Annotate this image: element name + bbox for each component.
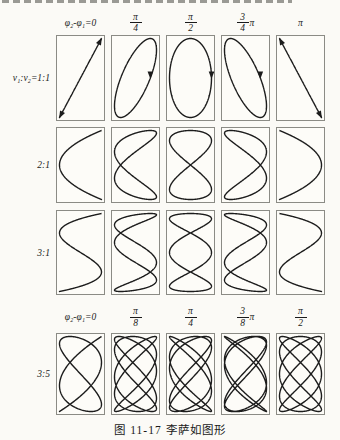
lissajous-curve xyxy=(170,131,212,200)
fraction-denominator: 8 xyxy=(237,317,249,328)
fraction-denominator: 2 xyxy=(295,317,307,328)
phase-label: π2 xyxy=(166,11,215,34)
ratio-label: 3:1 xyxy=(0,210,53,295)
phase-label: φ₂-φ₁=0 xyxy=(56,11,105,34)
lissajous-curve xyxy=(280,131,322,200)
lissajous-curve-svg xyxy=(57,211,104,294)
phase-fraction: π4 xyxy=(185,306,197,328)
lissajous-curve xyxy=(225,131,267,200)
direction-arrow xyxy=(96,36,104,45)
phase-fraction: 34 xyxy=(237,12,249,34)
direction-arrow xyxy=(277,36,285,45)
lissajous-curve-svg xyxy=(112,128,159,202)
fraction-suffix: π xyxy=(250,312,255,322)
lissajous-curve-svg xyxy=(57,128,104,202)
lissajous-curve xyxy=(115,337,157,412)
phase-label: φ₂-φ₁=0 xyxy=(56,303,105,331)
lissajous-curve-svg xyxy=(277,36,324,120)
phase-label: π4 xyxy=(166,303,215,331)
lissajous-curve xyxy=(115,131,157,200)
direction-arrow xyxy=(148,72,154,80)
lissajous-curve-svg xyxy=(167,128,214,202)
lissajous-curve xyxy=(280,214,322,292)
lissajous-curve-svg xyxy=(277,211,324,294)
lissajous-cell-r2c1 xyxy=(56,127,105,203)
lissajous-cell-r4c5 xyxy=(276,333,325,415)
phase-label: π2 xyxy=(276,303,325,331)
phase-text: π xyxy=(298,18,303,28)
lissajous-cell-r3c5 xyxy=(276,210,325,295)
lissajous-cell-r2c2 xyxy=(111,127,160,203)
lissajous-figure: 图 11-17 李萨如图形 φ₂-φ₁=0π4π234ππφ₂-φ₁=0π8π4… xyxy=(0,0,340,440)
phase-fraction: π8 xyxy=(130,306,142,328)
lissajous-curve-svg xyxy=(112,211,159,294)
lissajous-cell-r1c4 xyxy=(221,35,270,121)
phase-label: π4 xyxy=(111,11,160,34)
fraction-numerator: 3 xyxy=(238,306,247,316)
lissajous-cell-r1c1 xyxy=(56,35,105,121)
fraction-denominator: 2 xyxy=(185,22,197,33)
lissajous-cell-r2c3 xyxy=(166,127,215,203)
lissajous-curve-svg xyxy=(167,334,214,414)
direction-arrow xyxy=(258,72,264,80)
lissajous-curve-svg xyxy=(167,211,214,294)
lissajous-curve-svg xyxy=(57,36,104,120)
lissajous-cell-r3c4 xyxy=(221,210,270,295)
direction-arrow xyxy=(57,110,65,119)
lissajous-curve-svg xyxy=(167,36,214,120)
lissajous-curve xyxy=(225,337,267,412)
fraction-numerator: π xyxy=(296,306,305,316)
lissajous-curve xyxy=(60,39,102,118)
lissajous-curve-svg xyxy=(277,334,324,414)
lissajous-curve xyxy=(170,39,212,118)
fraction-numerator: π xyxy=(131,12,140,22)
phase-fraction: π2 xyxy=(295,306,307,328)
figure-caption: 图 11-17 李萨如图形 xyxy=(0,421,340,437)
lissajous-cell-r1c5 xyxy=(276,35,325,121)
lissajous-cell-r2c5 xyxy=(276,127,325,203)
lissajous-curve-svg xyxy=(222,334,269,414)
lissajous-curve-svg xyxy=(222,211,269,294)
lissajous-curve-svg xyxy=(112,334,159,414)
fraction-numerator: π xyxy=(186,306,195,316)
phase-fraction: π2 xyxy=(185,12,197,34)
lissajous-curve-svg xyxy=(57,334,104,414)
lissajous-curve xyxy=(170,337,212,412)
lissajous-curve xyxy=(280,337,322,412)
lissajous-cell-r1c2 xyxy=(111,35,160,121)
fraction-numerator: 3 xyxy=(238,12,247,22)
lissajous-cell-r4c1 xyxy=(56,333,105,415)
lissajous-curve xyxy=(115,214,157,292)
lissajous-cell-r3c2 xyxy=(111,210,160,295)
phase-fraction: π4 xyxy=(130,12,142,34)
lissajous-curve xyxy=(60,131,102,200)
lissajous-curve-svg xyxy=(277,128,324,202)
lissajous-cell-r3c1 xyxy=(56,210,105,295)
fraction-denominator: 8 xyxy=(130,317,142,328)
fraction-denominator: 4 xyxy=(130,22,142,33)
phase-fraction: 38 xyxy=(237,306,249,328)
phase-label: π xyxy=(276,11,325,34)
lissajous-curve-svg xyxy=(112,36,159,120)
cropped-text-top xyxy=(2,0,292,3)
lissajous-cell-r4c2 xyxy=(111,333,160,415)
ratio-label: 3:5 xyxy=(0,333,53,415)
ratio-label: 2:1 xyxy=(0,127,53,203)
lissajous-curve xyxy=(60,337,102,412)
phase-label: 34π xyxy=(221,11,270,34)
ratio-label: ν₁:ν₂=1:1 xyxy=(0,35,53,121)
lissajous-cell-r4c3 xyxy=(166,333,215,415)
lissajous-curve-svg xyxy=(222,36,269,120)
lissajous-cell-r2c4 xyxy=(221,127,270,203)
phase-text: φ₂-φ₁=0 xyxy=(65,312,96,322)
fraction-denominator: 4 xyxy=(237,22,249,33)
lissajous-curve-svg xyxy=(222,128,269,202)
phase-label: π8 xyxy=(111,303,160,331)
direction-arrow xyxy=(209,72,214,80)
phase-text: φ₂-φ₁=0 xyxy=(65,18,96,28)
lissajous-cell-r3c3 xyxy=(166,210,215,295)
fraction-numerator: π xyxy=(131,306,140,316)
lissajous-curve xyxy=(170,214,212,292)
fraction-denominator: 4 xyxy=(185,317,197,328)
fraction-numerator: π xyxy=(186,12,195,22)
